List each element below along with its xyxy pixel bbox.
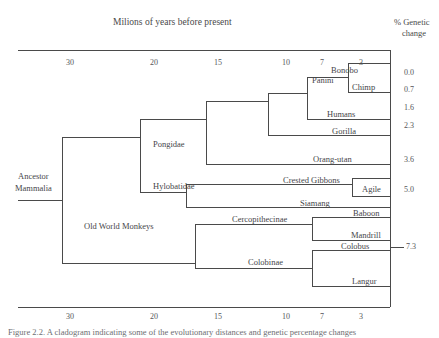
time-tick-7-top: 7 [320,59,324,67]
node-label-panini: Panini [312,76,334,85]
genetic-value-00: 0.0 [404,69,414,77]
node-label-ancestor-line1: Ancestor [18,172,49,181]
node-label-pongidae: Pongidae [153,140,185,149]
taxon-label-baboon: Baboon [353,209,379,218]
genetic-value-16: 1.6 [404,104,414,112]
time-tick-30-bottom: 30 [66,313,74,321]
taxon-label-gorilla: Gorilla [332,127,356,136]
node-label-ancestor-line2: Mammalia [15,184,52,193]
taxon-label-humans: Humans [327,110,355,119]
time-tick-20-bottom: 20 [150,313,158,321]
time-tick-10-top: 10 [282,59,290,67]
time-tick-3-top: 3 [359,59,363,67]
cladogram-figure: Milions of years before present % Geneti… [0,0,439,338]
taxon-label-chimp: Chimp [352,83,375,92]
taxon-label-agile: Agile [362,185,381,194]
taxon-label-orang-utan: Orang-utan [313,155,352,164]
taxon-label-siamang: Siamang [300,199,330,208]
node-label-hylobatidae: Hylobatidae [153,182,195,191]
genetic-value-50: 5.0 [404,186,414,194]
figure-caption: Figure 2.2. A cladogram indicating some … [8,327,432,338]
time-tick-20-top: 20 [150,59,158,67]
time-tick-15-bottom: 15 [214,313,222,321]
taxon-label-colobus: Colobus [341,242,369,251]
time-tick-10-bottom: 10 [282,313,290,321]
time-tick-30-top: 30 [66,59,74,67]
taxon-label-bonobo: Bonobo [331,66,358,75]
time-tick-7-bottom: 7 [320,313,324,321]
genetic-value-23: 2.3 [404,122,414,130]
time-tick-15-top: 15 [214,59,222,67]
genetic-value-36: 3.6 [404,156,414,164]
genetic-value-73: 7.3 [406,243,416,251]
node-label-colobinae: Colobinae [248,258,283,267]
time-tick-3-bottom: 3 [359,313,363,321]
genetic-value-07: 0.7 [404,86,414,94]
taxon-label-mandrill: Mandrill [351,231,381,240]
taxon-label-langur: Langur [352,277,377,286]
taxon-label-crested-gibbons: Crested Gibbons [283,176,340,185]
cladogram-canvas [0,0,439,338]
node-label-cercopithecinae: Cercopithecinae [232,215,287,224]
node-label-old-world-monkeys: Old World Monkeys [84,222,154,231]
